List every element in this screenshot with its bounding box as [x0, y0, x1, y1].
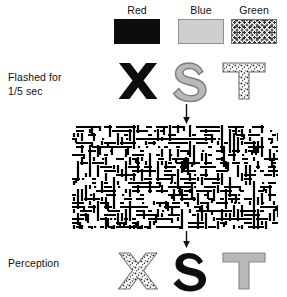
arrow-mask-to-perception [182, 231, 191, 248]
legend-item-green: Green [226, 4, 282, 44]
legend-label-red: Red [109, 4, 165, 16]
random-noise-mask [72, 125, 278, 229]
letter-x-black-icon [110, 58, 166, 104]
illusory-conjunction-figure: Red Blue Green Flashed for 1/5 sec [0, 0, 287, 297]
stimulus-glyph-s [163, 58, 219, 104]
perception-glyph-x [110, 248, 166, 294]
letter-t-stippled-icon [216, 58, 272, 104]
perception-glyph-s [163, 248, 219, 294]
row-label-flashed: Flashed for 1/5 sec [8, 70, 62, 98]
legend-item-blue: Blue [173, 4, 229, 44]
letter-x-stippled-icon [110, 248, 166, 294]
legend-label-green: Green [226, 4, 282, 16]
legend-swatch-red [114, 19, 160, 44]
legend-item-red: Red [109, 4, 165, 44]
arrow-stimulus-to-mask [182, 104, 191, 124]
letter-s-gray-icon [163, 58, 219, 104]
row-label-perception: Perception [8, 256, 59, 270]
stimulus-glyph-x [110, 58, 166, 104]
legend-label-blue: Blue [173, 4, 229, 16]
letter-s-black-icon [163, 248, 219, 294]
legend-swatch-blue [178, 19, 224, 44]
letter-t-gray-icon [216, 248, 272, 294]
perception-glyph-t [216, 248, 272, 294]
noise-pattern [72, 125, 278, 229]
stimulus-glyph-t [216, 58, 272, 104]
legend-swatch-green [231, 19, 277, 44]
